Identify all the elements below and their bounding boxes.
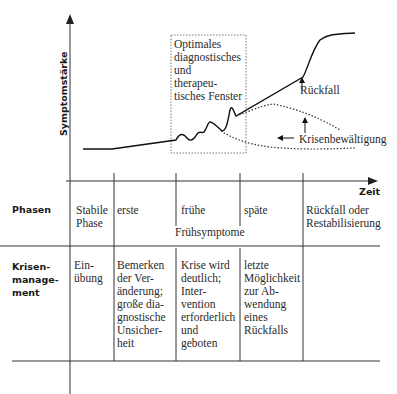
y-axis-label: Symptomstärke <box>58 52 69 137</box>
crisis-row-label: Krisen- manage- ment <box>12 260 59 299</box>
x-axis-arrow-icon <box>368 177 378 185</box>
crisis-management-label: Krisenbewältigung <box>299 133 387 146</box>
phases-row-label: Phasen <box>12 204 51 215</box>
y-axis-arrow-icon <box>66 14 74 24</box>
crisis-cell-intervention: Krise wirddeutlich;Inter-ventionerforder… <box>181 259 235 350</box>
phase-cell-early: frühe <box>181 204 205 217</box>
crisis-cell-practice: Ein-übung <box>74 259 103 285</box>
phase-cell-relapse: Rückfall oder Restabilisierung <box>306 204 376 230</box>
relapse-label: Rückfall <box>300 84 340 97</box>
crisis-arrow-left-icon <box>277 135 283 141</box>
phase-cell-first: erste <box>117 204 139 217</box>
phase-cell-stable: Stabile Phase <box>76 204 112 230</box>
phase-cell-late: späte <box>244 204 268 217</box>
relapse-arrow-icon <box>299 77 305 83</box>
early-symptoms-span-label: Frühsymptome <box>173 226 247 239</box>
optimal-window-label: Optimales diagnostisches und therapeu- t… <box>174 38 242 103</box>
crisis-cell-last-chance: letzteMöglichkeitzur Ab-wendungeinesRück… <box>244 259 300 337</box>
crisis-curve-upper <box>236 104 340 130</box>
crisis-arrow-up-icon <box>302 117 308 123</box>
x-axis-label: Zeit <box>359 186 380 197</box>
crisis-cell-noticing: Bemerkender Ver-änderung;große dia-gnost… <box>117 259 166 350</box>
